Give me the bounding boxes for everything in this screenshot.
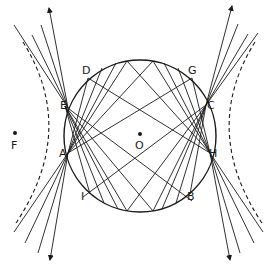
geometry-diagram	[0, 0, 268, 267]
label-C: C	[207, 100, 215, 111]
label-O: O	[135, 140, 144, 151]
label-H: H	[209, 148, 217, 159]
center-dot-O	[138, 132, 142, 136]
label-A: A	[59, 148, 67, 159]
left-lower-rays	[14, 153, 68, 260]
left-dashed-envelope	[16, 42, 49, 223]
right-dashed-envelope	[229, 42, 262, 223]
right-upper-rays	[206, 6, 258, 105]
left-upper-rays	[14, 8, 68, 108]
label-B: B	[187, 191, 195, 202]
label-E: E	[60, 100, 67, 111]
reflected-chords	[65, 61, 210, 211]
label-G: G	[188, 65, 197, 76]
right-lower-rays	[210, 153, 263, 260]
label-F: F	[11, 140, 17, 151]
label-I: I	[81, 191, 84, 202]
focus-dot-F	[13, 131, 17, 135]
label-D: D	[82, 65, 90, 76]
